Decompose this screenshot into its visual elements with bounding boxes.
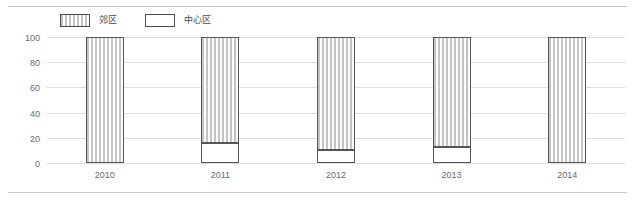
stacked-bar-chart: 郊区 中心区 020406080100 20102011201220132014 bbox=[0, 0, 635, 204]
bar-segment[interactable] bbox=[201, 143, 239, 163]
bar-column-2012[interactable] bbox=[317, 37, 355, 163]
y-axis-tick-label: 0 bbox=[35, 160, 40, 169]
x-axis-tick-label: 2011 bbox=[185, 171, 255, 180]
bar-segment[interactable] bbox=[86, 37, 124, 163]
legend-swatch-white-icon bbox=[145, 14, 175, 27]
bar-segment[interactable] bbox=[317, 150, 355, 163]
gridline-y-0: 0 bbox=[47, 163, 625, 164]
bar-segment[interactable] bbox=[433, 147, 471, 163]
bar-column-2010[interactable] bbox=[86, 37, 124, 163]
bar-segment[interactable] bbox=[201, 37, 239, 143]
y-axis-tick-label: 100 bbox=[25, 34, 40, 43]
x-axis-tick-label: 2012 bbox=[301, 171, 371, 180]
legend-label-center: 中心区 bbox=[184, 16, 211, 25]
top-divider-rule bbox=[8, 6, 627, 7]
x-axis-tick-label: 2013 bbox=[417, 171, 487, 180]
bar-column-2011[interactable] bbox=[201, 37, 239, 163]
bar-segment[interactable] bbox=[433, 37, 471, 147]
legend-item-suburb[interactable]: 郊区 bbox=[60, 14, 117, 27]
x-axis-tick-label: 2010 bbox=[70, 171, 140, 180]
y-axis-tick-label: 80 bbox=[30, 59, 40, 68]
bar-column-2013[interactable] bbox=[433, 37, 471, 163]
y-axis-tick-label: 40 bbox=[30, 109, 40, 118]
legend-swatch-hatched-icon bbox=[60, 14, 90, 27]
bar-segment[interactable] bbox=[548, 37, 586, 163]
legend-label-suburb: 郊区 bbox=[99, 16, 117, 25]
bar-segment[interactable] bbox=[317, 37, 355, 150]
bar-column-2014[interactable] bbox=[548, 37, 586, 163]
bottom-divider-rule bbox=[8, 192, 627, 193]
y-axis-tick-label: 20 bbox=[30, 134, 40, 143]
chart-legend: 郊区 中心区 bbox=[60, 13, 211, 28]
plot-area: 020406080100 bbox=[47, 37, 625, 163]
y-axis-tick-label: 60 bbox=[30, 84, 40, 93]
x-axis-tick-label: 2014 bbox=[532, 171, 602, 180]
legend-item-center[interactable]: 中心区 bbox=[145, 14, 211, 27]
